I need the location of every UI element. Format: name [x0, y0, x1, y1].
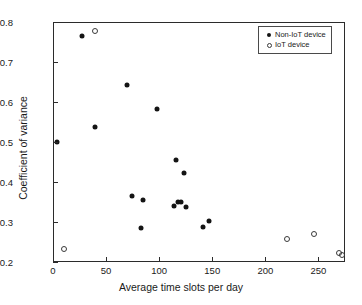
open-circle-icon	[263, 43, 275, 48]
data-point-non-iot	[125, 82, 130, 87]
y-axis-title: Coefficient of variance	[17, 63, 29, 233]
y-tick-mark	[53, 142, 58, 143]
x-axis-title: Average time slots per day	[0, 281, 362, 293]
data-point-iot	[339, 252, 345, 258]
filled-circle-icon	[263, 33, 275, 37]
y-tick-label: 0.2	[0, 257, 13, 268]
y-tick-label: 0.8	[0, 17, 13, 28]
data-points-layer	[54, 23, 344, 261]
x-tick-label: 250	[311, 265, 327, 276]
data-point-iot	[92, 28, 98, 34]
legend-item: Non-IoT device	[263, 30, 326, 40]
y-tick-mark	[53, 62, 58, 63]
y-tick-mark	[53, 222, 58, 223]
data-point-non-iot	[179, 199, 184, 204]
plot-area	[53, 22, 345, 262]
data-point-non-iot	[129, 194, 134, 199]
data-point-non-iot	[79, 33, 84, 38]
data-point-non-iot	[139, 226, 144, 231]
data-point-non-iot	[200, 225, 205, 230]
x-tick-mark	[159, 257, 160, 262]
data-point-non-iot	[183, 204, 188, 209]
data-point-non-iot	[174, 157, 179, 162]
y-tick-mark	[53, 182, 58, 183]
data-point-non-iot	[154, 107, 159, 112]
data-point-iot	[311, 231, 317, 237]
data-point-iot	[61, 246, 67, 252]
y-tick-label: 0.6	[0, 97, 13, 108]
x-tick-label: 150	[204, 265, 220, 276]
scatter-plot-figure: 0.20.30.40.50.60.70.8050100150200250 Ave…	[0, 0, 362, 305]
x-tick-mark	[318, 257, 319, 262]
data-point-non-iot	[181, 171, 186, 176]
legend-item-label: IoT device	[275, 40, 309, 50]
y-tick-label: 0.5	[0, 137, 13, 148]
x-tick-label: 0	[50, 265, 55, 276]
x-tick-label: 50	[101, 265, 112, 276]
data-point-iot	[284, 236, 290, 242]
legend: Non-IoT deviceIoT device	[258, 26, 332, 54]
x-tick-label: 100	[151, 265, 167, 276]
y-tick-mark	[53, 262, 58, 263]
data-point-non-iot	[207, 219, 212, 224]
y-tick-mark	[53, 22, 58, 23]
data-point-non-iot	[93, 125, 98, 130]
y-tick-label: 0.4	[0, 177, 13, 188]
x-tick-label: 200	[257, 265, 273, 276]
legend-item-label: Non-IoT device	[275, 30, 326, 40]
legend-item: IoT device	[263, 40, 326, 50]
y-tick-label: 0.7	[0, 57, 13, 68]
y-tick-mark	[53, 102, 58, 103]
data-point-non-iot	[141, 197, 146, 202]
y-tick-label: 0.3	[0, 217, 13, 228]
x-tick-mark	[265, 257, 266, 262]
x-tick-mark	[212, 257, 213, 262]
x-tick-mark	[106, 257, 107, 262]
x-tick-mark	[53, 257, 54, 262]
